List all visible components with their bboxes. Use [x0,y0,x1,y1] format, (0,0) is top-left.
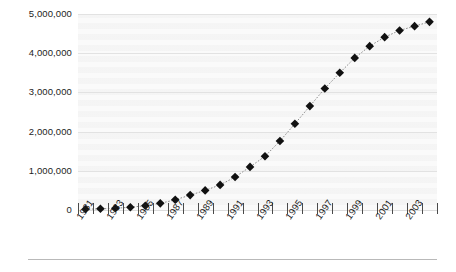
chart-container: 01,000,0002,000,0003,000,0004,000,0005,0… [0,0,456,272]
y-axis-tick-label: 0 [0,204,72,215]
data-point-marker [231,173,240,182]
series-line [85,22,429,209]
bottom-divider [28,259,437,260]
data-point-marker [186,191,195,200]
data-point-marker [425,18,434,27]
data-series [78,14,437,210]
data-point-marker [410,22,419,31]
y-axis-tick-label: 1,000,000 [0,165,72,176]
x-axis-tick [437,203,438,214]
data-point-marker [380,33,389,42]
data-point-marker [395,26,404,35]
data-point-marker [246,163,255,172]
y-axis-tick-label: 4,000,000 [0,47,72,58]
y-axis-tick-label: 3,000,000 [0,86,72,97]
y-axis-tick-label: 5,000,000 [0,8,72,19]
data-point-marker [365,42,374,51]
data-point-marker [201,186,210,195]
y-axis-tick-label: 2,000,000 [0,126,72,137]
data-point-marker [216,181,225,190]
x-axis-labels: 1981198319851987198919911993199519971999… [78,215,437,255]
plot-area [78,14,437,210]
